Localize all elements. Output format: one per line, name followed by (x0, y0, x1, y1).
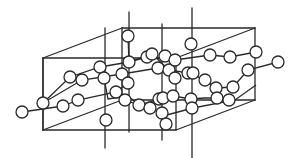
atom-circle (122, 30, 134, 42)
atom-circle (187, 67, 199, 79)
atom-circle (98, 72, 110, 84)
atom-circle (227, 81, 239, 93)
atom-circle (16, 106, 28, 118)
atom-circle (169, 72, 181, 84)
crystal-lattice-diagram: Crystal structure unit cell with helical… (0, 0, 296, 158)
atom-circle (204, 49, 216, 61)
atom-circle (123, 56, 135, 68)
atom-circle (76, 74, 88, 86)
atom-circle (272, 56, 284, 68)
atom-circle (94, 61, 106, 73)
atom-circle (199, 74, 211, 86)
atom-circle (119, 94, 131, 106)
atom-circle (64, 71, 76, 83)
atom-circle (242, 64, 254, 76)
atom-circle (160, 118, 172, 130)
atom-circle (167, 90, 179, 102)
atom-circle (169, 54, 181, 66)
atom-circle (37, 97, 49, 109)
atom-circle (223, 94, 235, 106)
atom-circle (133, 99, 145, 111)
atom-circle (100, 114, 112, 126)
atom-circle (156, 107, 168, 119)
atom-circle (211, 92, 223, 104)
atom-circle (152, 62, 164, 74)
atom-circle (72, 94, 84, 106)
vertical-axis-lines (43, 8, 192, 158)
atom-circle (122, 77, 134, 89)
atoms (16, 30, 284, 130)
lattice-canvas (0, 0, 296, 158)
atom-circle (185, 38, 197, 50)
atom-circle (57, 100, 69, 112)
atom-circle (224, 51, 236, 63)
atom-circle (144, 102, 156, 114)
atom-circle (250, 46, 262, 58)
cell-edge (43, 28, 122, 58)
atom-circle (146, 48, 158, 60)
atom-circle (186, 102, 198, 114)
